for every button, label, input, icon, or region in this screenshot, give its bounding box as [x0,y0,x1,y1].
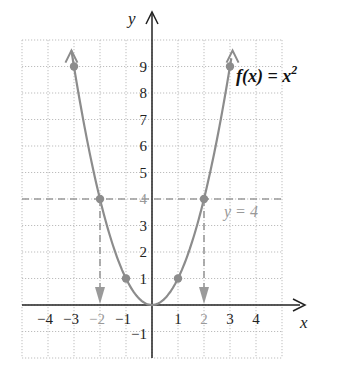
down-arrow-icon [95,287,105,304]
data-point [96,195,104,203]
data-point [226,62,234,70]
y-tick-label: 9 [140,59,148,75]
axes [22,12,305,358]
y-equals-4-label: y = 4 [222,203,258,221]
data-point [122,274,130,282]
parabola-chart: −4−3−2−11234 −1123456789 y x f(x) = x2 y… [0,0,339,388]
x-tick-label: −2 [89,311,105,327]
y-tick-label: 1 [140,271,148,287]
data-point [200,195,208,203]
curve-end-arrow-icon [227,51,239,63]
x-tick-label: 1 [174,311,182,327]
y-tick-label: 3 [140,218,148,234]
function-label-base: f(x) = x [236,66,291,87]
x-tick-label: 2 [200,311,208,327]
y-tick-label: 8 [140,85,148,101]
x-tick-label: −3 [63,311,79,327]
y-tick-label: 5 [140,165,148,181]
data-point [174,274,182,282]
y-axis-label: y [126,9,136,28]
down-arrow-icon [199,287,209,304]
x-tick-label: 4 [252,311,260,327]
x-tick-label: 3 [226,311,234,327]
function-label: f(x) = x2 [236,63,297,87]
y-tick-label: −1 [131,326,147,342]
y-tick-label: 4 [140,191,148,207]
y-tick-label: 7 [140,112,148,128]
x-tick-label: −1 [115,311,131,327]
x-tick-label: −4 [37,311,53,327]
y-tick-label: 2 [140,244,148,260]
data-point [70,62,78,70]
y-tick-label: 6 [140,138,148,154]
function-label-exponent: 2 [290,63,297,77]
x-axis-label: x [299,313,308,332]
x-tick-labels: −4−3−2−11234 [37,311,260,327]
